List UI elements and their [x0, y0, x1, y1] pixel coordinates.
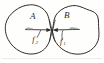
force-f1-subscript: 1	[63, 41, 65, 46]
body-b-label: B	[64, 10, 70, 20]
force-f2-leader	[37, 30, 40, 37]
force-f2-group: f 2	[26, 28, 52, 46]
force-f1-arrowhead	[53, 28, 58, 32]
body-a-label: A	[29, 11, 36, 21]
force-f2-subscript: 2	[36, 40, 39, 45]
scan-artifacts	[2, 58, 102, 61]
physics-figure: A B f 2	[0, 0, 104, 63]
force-f1-arrow-tag	[69, 27, 78, 29]
force-f2-arrow-tag	[26, 28, 33, 30]
force-f1-shaft	[55, 29, 79, 30]
figure-canvas: A B f 2	[0, 0, 104, 63]
